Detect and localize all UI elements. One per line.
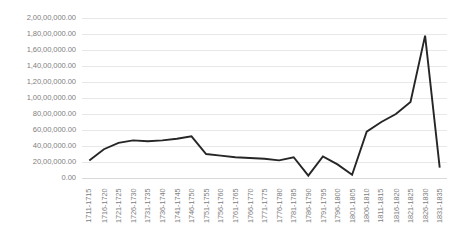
x-axis-tick-label: 1716-1720	[97, 180, 112, 237]
x-axis-tick-label: 1756-1760	[213, 180, 228, 237]
x-axis-tick-label: 1711-1715	[82, 180, 97, 237]
x-axis-tick-label: 1786-1790	[301, 180, 316, 237]
series-line-series-1	[89, 36, 439, 176]
x-axis-tick-label: 1806-1810	[359, 180, 374, 237]
x-axis-tick-label: 1726-1730	[126, 180, 141, 237]
y-axis-tick-label: 2,00,00,000.00	[0, 14, 76, 22]
y-axis-tick-label: 1,40,00,000.00	[0, 62, 76, 70]
y-axis-tick-label: 20,00,000.00	[0, 158, 76, 166]
x-axis-tick-label: 1781-1785	[286, 180, 301, 237]
x-axis-tick-label: 1731-1735	[140, 180, 155, 237]
x-axis-tick-label: 1721-1725	[111, 180, 126, 237]
y-axis-tick-label: 1,60,00,000.00	[0, 46, 76, 54]
x-axis-tick-label: 1761-1765	[228, 180, 243, 237]
x-axis-tick-label: 1831-1835	[432, 180, 447, 237]
plot-area	[82, 18, 447, 178]
line-chart: 0.0020,00,000.0040,00,000.0060,00,000.00…	[0, 0, 469, 239]
y-axis-tick-label: 1,80,00,000.00	[0, 30, 76, 38]
x-axis-tick-label: 1816-1820	[389, 180, 404, 237]
x-axis-tick-label: 1746-1750	[184, 180, 199, 237]
x-axis-tick-label: 1826-1830	[418, 180, 433, 237]
y-axis-tick-label: 1,00,00,000.00	[0, 94, 76, 102]
x-axis-tick-label: 1791-1795	[316, 180, 331, 237]
y-axis-tick-label: 40,00,000.00	[0, 142, 76, 150]
x-axis-tick-label: 1771-1775	[257, 180, 272, 237]
x-axis-tick-label: 1766-1770	[243, 180, 258, 237]
y-axis: 0.0020,00,000.0040,00,000.0060,00,000.00…	[0, 18, 76, 178]
x-axis-tick-label: 1821-1825	[403, 180, 418, 237]
y-axis-tick-label: 60,00,000.00	[0, 126, 76, 134]
x-axis-tick-label: 1796-1800	[330, 180, 345, 237]
gridline	[82, 178, 447, 179]
x-axis-tick-label: 1776-1780	[272, 180, 287, 237]
x-axis: 1711-17151716-17201721-17251726-17301731…	[82, 180, 447, 239]
x-axis-tick-label: 1751-1755	[199, 180, 214, 237]
y-axis-tick-label: 0.00	[0, 174, 76, 182]
x-axis-tick-label: 1811-1815	[374, 180, 389, 237]
y-axis-tick-label: 80,00,000.00	[0, 110, 76, 118]
y-axis-tick-label: 1,20,00,000.00	[0, 78, 76, 86]
x-axis-tick-label: 1801-1805	[345, 180, 360, 237]
x-axis-tick-label: 1741-1745	[170, 180, 185, 237]
x-axis-tick-label: 1736-1740	[155, 180, 170, 237]
series-layer	[82, 18, 447, 178]
